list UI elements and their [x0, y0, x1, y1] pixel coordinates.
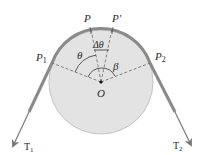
label-beta: β: [112, 60, 119, 72]
origin-point: [99, 80, 102, 83]
label-p: P: [83, 12, 91, 24]
label-p-prime: P': [111, 12, 122, 24]
label-p2: P2: [154, 50, 166, 64]
label-theta: θ: [77, 49, 83, 61]
label-delta-theta: Δθ: [92, 39, 104, 50]
belt-right-segment: [150, 63, 175, 112]
label-t1: T1: [24, 141, 34, 154]
label-p1: P1: [35, 51, 47, 65]
belt-left-segment: [29, 63, 52, 112]
label-t2: T2: [173, 140, 183, 153]
label-origin: O: [97, 87, 105, 99]
belt-friction-diagram: P P' P1 P2 θ Δθ β O T1 T2: [0, 0, 204, 155]
